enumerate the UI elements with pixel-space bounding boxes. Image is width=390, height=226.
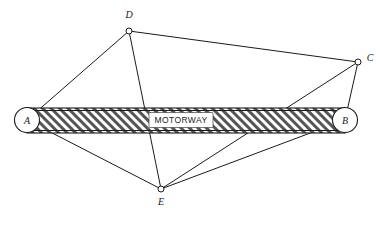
- node-C[interactable]: C: [355, 52, 374, 65]
- node-D[interactable]: D: [124, 9, 133, 34]
- diagram-root: MOTORWAY A B C D E: [0, 0, 390, 226]
- node-C-label: C: [367, 52, 374, 63]
- node-A-label: A: [23, 115, 31, 126]
- node-D-label: D: [124, 9, 133, 20]
- motorway-label-text: MOTORWAY: [155, 115, 208, 125]
- edge-A-D: [27, 31, 129, 120]
- motorway-label: MOTORWAY: [149, 113, 213, 128]
- node-E-dot[interactable]: [158, 186, 164, 192]
- node-A[interactable]: A: [15, 108, 40, 133]
- node-D-dot[interactable]: [126, 28, 132, 34]
- network-diagram-svg: MOTORWAY A B C D E: [0, 0, 390, 226]
- node-B[interactable]: B: [333, 108, 358, 133]
- node-C-dot[interactable]: [355, 59, 361, 65]
- edge-D-C: [129, 31, 358, 62]
- node-E[interactable]: E: [157, 186, 164, 207]
- node-B-label: B: [342, 115, 348, 126]
- node-E-label: E: [157, 196, 164, 207]
